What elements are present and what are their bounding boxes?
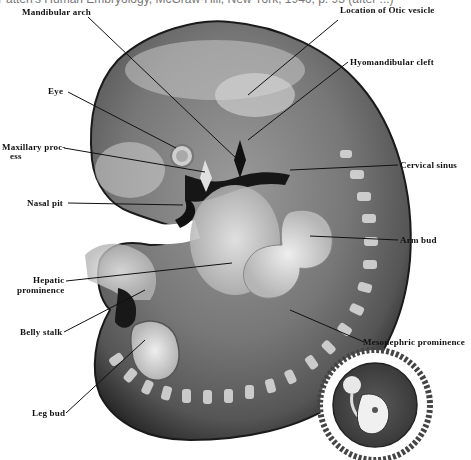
- label-otic-vesicle: Location of Otic vesicle: [340, 5, 435, 15]
- embryo-illustration: [0, 0, 471, 460]
- label-mesonephric-prominence: Mesonephric prominence: [363, 337, 465, 347]
- label-leg-bud: Leg bud: [32, 408, 65, 418]
- label-prominence: prominence: [17, 285, 64, 295]
- label-cervical-sinus: Cervical sinus: [400, 160, 457, 170]
- label-belly-stalk: Belly stalk: [20, 327, 62, 337]
- figure-stage: Patten's Human Embryology, McGraw-Hill, …: [0, 0, 471, 460]
- label-hepatic: Hepatic: [33, 275, 64, 285]
- label-hyomandibular-cleft: Hyomandibular cleft: [350, 57, 434, 67]
- inset-chorionic-sac: [320, 350, 430, 460]
- label-mandibular-arch: Mandibular arch: [22, 7, 91, 17]
- label-arm-bud: Arm bud: [400, 235, 437, 245]
- label-maxillary-process-cont: ess: [10, 151, 22, 161]
- label-nasal-pit: Nasal pit: [27, 198, 63, 208]
- label-eye: Eye: [48, 86, 63, 96]
